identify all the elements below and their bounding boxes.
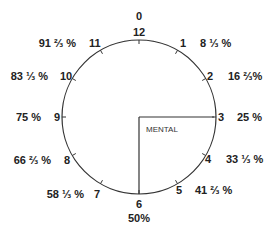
hour-label-5: 5: [176, 184, 182, 196]
center-label-mental: MENTAL: [146, 125, 178, 134]
percent-label-3: 25 %: [237, 111, 262, 123]
hour-label-3: 3: [218, 111, 224, 123]
hour-label-7: 7: [94, 188, 100, 200]
clock-diagram: MENTAL 0 12 1 8 ⅓ % 2 16 ⅔% 3 25 % 4 33 …: [0, 0, 273, 230]
percent-label-1: 8 ⅓ %: [200, 37, 231, 49]
top-zero-label: 0: [136, 10, 142, 22]
hour-label-6: 6: [136, 198, 142, 210]
hour-label-2: 2: [207, 70, 213, 82]
hour-label-12: 12: [133, 26, 145, 38]
hour-label-1: 1: [180, 37, 186, 49]
bottom-fifty-percent-label: 50%: [128, 212, 150, 224]
percent-label-11: 91 ⅔ %: [39, 37, 77, 49]
hour-label-9: 9: [54, 111, 60, 123]
hour-label-10: 10: [60, 70, 72, 82]
percent-label-8: 66 ⅔ %: [14, 154, 52, 166]
percent-label-10: 83 ⅓ %: [11, 70, 49, 82]
percent-label-7: 58 ⅓ %: [47, 188, 85, 200]
percent-label-2: 16 ⅔%: [228, 70, 262, 82]
percent-label-9: 75 %: [16, 111, 41, 123]
hour-label-11: 11: [89, 37, 101, 49]
hour-label-4: 4: [205, 153, 212, 165]
percent-label-4: 33 ⅓ %: [226, 153, 264, 165]
hour-label-8: 8: [64, 154, 70, 166]
percent-label-5: 41 ⅔ %: [195, 184, 233, 196]
